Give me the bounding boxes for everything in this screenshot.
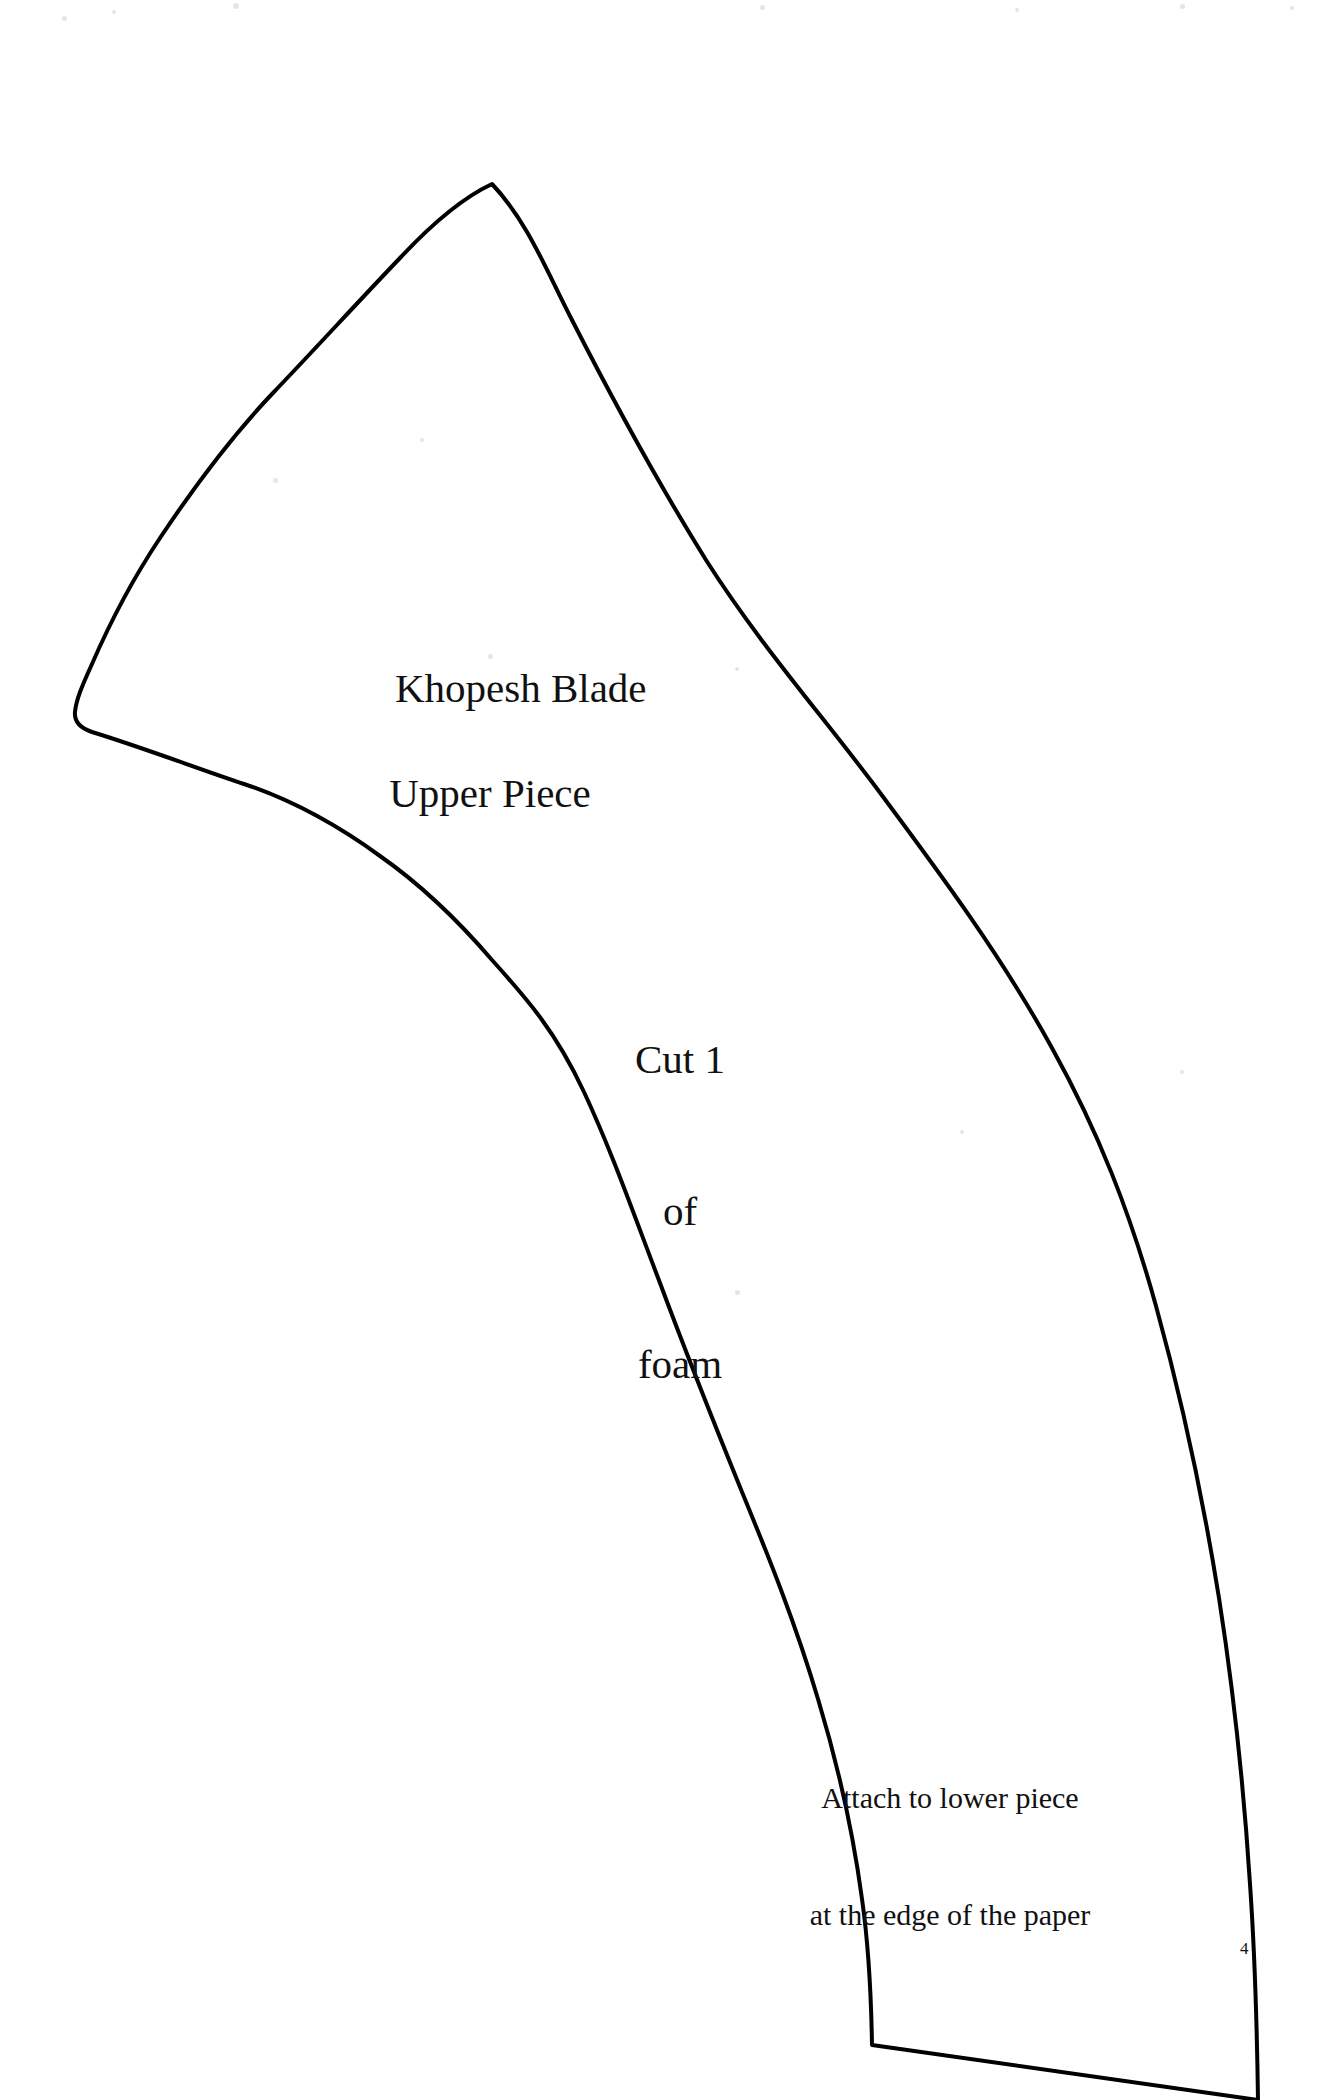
scan-speck: [273, 478, 278, 483]
scan-speck: [112, 10, 116, 14]
cut-instruction-line-2: of: [500, 1186, 860, 1237]
page-number: 4: [1240, 1938, 1280, 1959]
pattern-title-line-1: Khopesh Blade: [395, 665, 647, 711]
scan-speck: [1180, 4, 1185, 9]
attach-instruction-line-2: at the edge of the paper: [700, 1895, 1200, 1934]
attach-instruction-line-1: Attach to lower piece: [700, 1778, 1200, 1817]
scan-speck: [1015, 8, 1019, 12]
scan-speck: [62, 16, 67, 21]
cut-instruction: Cut 1 of foam: [500, 932, 860, 1491]
cut-instruction-line-1: Cut 1: [500, 1034, 860, 1085]
scan-speck: [420, 438, 424, 442]
pattern-title-line-2: Upper Piece: [140, 768, 840, 819]
scan-speck: [735, 667, 739, 671]
scan-speck: [1180, 1070, 1184, 1074]
annotation-text-layer: Khopesh Blade Upper Piece Cut 1 of foam …: [0, 0, 1340, 2100]
scan-speck: [960, 1130, 964, 1134]
scan-speck: [233, 3, 239, 9]
cut-instruction-line-3: foam: [500, 1339, 860, 1390]
scan-speck: [760, 5, 765, 10]
pattern-page: Khopesh Blade Upper Piece Cut 1 of foam …: [0, 0, 1340, 2100]
scan-speck: [488, 654, 493, 659]
attach-instruction: Attach to lower piece at the edge of the…: [700, 1700, 1200, 2012]
scan-speck: [735, 1290, 740, 1295]
scan-speck: [1290, 6, 1294, 10]
